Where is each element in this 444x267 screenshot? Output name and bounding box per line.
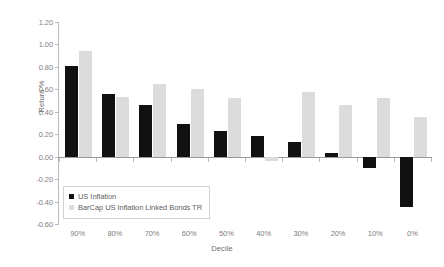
bar-group xyxy=(323,22,360,224)
y-axis-tick-label: 0.40 xyxy=(39,107,53,116)
x-axis-tick-mark xyxy=(59,158,60,162)
legend-swatch-icon xyxy=(69,205,74,210)
y-axis-tick-label: 1.00 xyxy=(39,40,53,49)
bar xyxy=(363,157,376,168)
x-axis-tick-label: 50% xyxy=(209,229,243,238)
y-axis-tick-label: -0.60 xyxy=(36,220,53,229)
y-axis-tick-label: 0.80 xyxy=(39,62,53,71)
bar-group xyxy=(212,22,249,224)
bar-group xyxy=(249,22,286,224)
legend-swatch-icon xyxy=(69,194,74,199)
y-axis-tick-label: 0.00 xyxy=(39,152,53,161)
x-axis-tick-mark xyxy=(245,158,246,162)
bar xyxy=(400,157,413,208)
x-axis-tick-label: 80% xyxy=(98,229,132,238)
bar xyxy=(339,105,352,157)
y-axis-tick-label: 0.60 xyxy=(39,85,53,94)
y-axis-tick-labels: 1.201.000.800.600.400.200.00-0.20-0.40-0… xyxy=(0,22,53,224)
bar xyxy=(102,94,115,157)
x-axis-tick-mark xyxy=(394,158,395,162)
bar xyxy=(177,124,190,157)
bar xyxy=(288,142,301,157)
x-axis-tick-label: 40% xyxy=(247,229,281,238)
x-axis-tick-label: 10% xyxy=(358,229,392,238)
bar xyxy=(116,97,129,156)
bar xyxy=(153,84,166,157)
bar-chart: Return % 1.201.000.800.600.400.200.00-0.… xyxy=(0,0,444,267)
legend-label: US Inflation xyxy=(78,192,116,201)
x-axis-tick-mark xyxy=(431,158,432,162)
x-axis-tick-mark xyxy=(96,158,97,162)
bar xyxy=(65,66,78,157)
x-axis-tick-labels: 90%80%70%60%50%40%30%20%10%0% xyxy=(59,229,431,241)
bar xyxy=(79,51,92,156)
bar xyxy=(191,89,204,156)
bar xyxy=(377,98,390,156)
bar xyxy=(228,98,241,156)
legend-item: US Inflation xyxy=(69,191,202,202)
x-axis-tick-mark xyxy=(208,158,209,162)
x-axis-tick-label: 60% xyxy=(172,229,206,238)
y-axis-tick-label: 1.20 xyxy=(39,18,53,27)
x-axis-tick-mark xyxy=(319,158,320,162)
bar xyxy=(265,157,278,161)
x-axis-tick-mark xyxy=(357,158,358,162)
bar-group xyxy=(398,22,435,224)
bar-group xyxy=(286,22,323,224)
legend-item: BarCap US Inflation Linked Bonds TR xyxy=(69,202,202,213)
y-axis-tick-label: -0.20 xyxy=(36,175,53,184)
y-axis-tick-label: 0.20 xyxy=(39,130,53,139)
bar xyxy=(139,105,152,157)
x-axis-tick-label: 90% xyxy=(61,229,95,238)
x-axis-tick-mark xyxy=(282,158,283,162)
bar xyxy=(214,131,227,157)
x-axis-tick-mark xyxy=(171,158,172,162)
x-axis-tick-label: 0% xyxy=(395,229,429,238)
x-axis-title: Decile xyxy=(0,244,444,253)
x-axis-tick-label: 30% xyxy=(284,229,318,238)
legend: US InflationBarCap US Inflation Linked B… xyxy=(63,186,210,219)
x-axis-tick-label: 20% xyxy=(321,229,355,238)
bar xyxy=(302,92,315,157)
bar xyxy=(251,136,264,156)
bar xyxy=(414,117,427,156)
legend-label: BarCap US Inflation Linked Bonds TR xyxy=(78,203,202,212)
x-axis-tick-label: 70% xyxy=(135,229,169,238)
y-axis-tick-label: -0.40 xyxy=(36,197,53,206)
x-axis-tick-mark xyxy=(133,158,134,162)
bar-group xyxy=(361,22,398,224)
bar xyxy=(325,153,338,156)
